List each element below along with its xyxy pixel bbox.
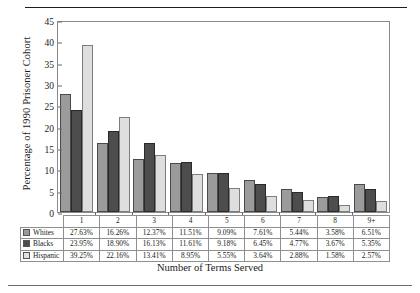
bar-hispanic-2 xyxy=(119,117,130,212)
bar-whites-7 xyxy=(281,189,292,212)
bar-hispanic-1 xyxy=(82,45,93,212)
table-cell: 5.44% xyxy=(281,227,317,239)
plot-area: 051015202530354045 xyxy=(57,21,390,213)
legend-swatch-icon xyxy=(23,240,30,247)
bar-hispanic-4 xyxy=(192,174,203,212)
y-tick-mark xyxy=(58,86,62,87)
table-cell: 12.37% xyxy=(136,227,172,239)
bar-blacks-2 xyxy=(108,131,119,212)
bar-whites-2 xyxy=(97,143,108,212)
y-tick-label: 20 xyxy=(45,124,55,134)
y-tick-label: 5 xyxy=(49,188,54,198)
plot-inner: 051015202530354045 xyxy=(58,22,389,212)
bar-group xyxy=(95,22,132,212)
table-cell: 9.09% xyxy=(209,227,245,239)
y-axis-title: Percentage of 1990 Prisoner Cohort xyxy=(21,11,32,216)
column-header: 6 xyxy=(245,216,281,228)
bar-whites-8 xyxy=(317,197,328,212)
y-tick-mark xyxy=(58,192,62,193)
table-cell: 7.61% xyxy=(245,227,281,239)
table-corner-cell xyxy=(21,216,64,228)
table-cell: 2.88% xyxy=(281,250,317,262)
legend-item-hispanic: Hispanic xyxy=(21,250,64,262)
y-tick-label: 40 xyxy=(45,38,55,48)
table-cell: 3.64% xyxy=(245,250,281,262)
bar-hispanic-9plus xyxy=(376,201,387,212)
table-cell: 11.61% xyxy=(172,239,208,251)
column-header: 2 xyxy=(100,216,136,228)
bar-blacks-5 xyxy=(218,173,229,212)
table-cell: 8.95% xyxy=(172,250,208,262)
table-cell: 16.26% xyxy=(100,227,136,239)
legend-swatch-icon xyxy=(23,252,30,259)
bar-group xyxy=(168,22,205,212)
bar-blacks-4 xyxy=(181,162,192,212)
bar-group xyxy=(315,22,352,212)
bar-group xyxy=(205,22,242,212)
table-cell: 22.16% xyxy=(100,250,136,262)
table-cell: 13.41% xyxy=(136,250,172,262)
legend-swatch-icon xyxy=(23,229,30,236)
bar-whites-6 xyxy=(244,180,255,212)
table-cell: 2.57% xyxy=(353,250,389,262)
bar-blacks-6 xyxy=(255,184,266,212)
table-row: Whites27.63%16.26%12.37%11.51%9.09%7.61%… xyxy=(21,227,390,239)
table-cell: 18.90% xyxy=(100,239,136,251)
bar-groups xyxy=(58,22,389,212)
column-header: 5 xyxy=(209,216,245,228)
y-tick-mark xyxy=(58,64,62,65)
legend-label: Whites xyxy=(33,228,54,237)
x-axis-title: Number of Terms Served xyxy=(0,262,420,273)
bar-blacks-8 xyxy=(328,196,339,212)
y-tick-label: 15 xyxy=(45,145,55,155)
table-row: Blacks23.95%18.90%16.13%11.61%9.18%6.45%… xyxy=(21,239,390,251)
bar-blacks-1 xyxy=(71,110,82,212)
table-cell: 4.77% xyxy=(281,239,317,251)
table-cell: 3.58% xyxy=(317,227,353,239)
table-cell: 5.35% xyxy=(353,239,389,251)
table-row: Hispanic39.25%22.16%13.41%8.95%5.55%3.64… xyxy=(21,250,390,262)
y-tick-mark xyxy=(58,107,62,108)
top-rule xyxy=(25,7,407,8)
bar-group xyxy=(352,22,389,212)
table-cell: 5.55% xyxy=(209,250,245,262)
bar-hispanic-3 xyxy=(155,155,166,212)
legend-item-whites: Whites xyxy=(21,227,64,239)
table-cell: 23.95% xyxy=(63,239,99,251)
bar-whites-3 xyxy=(133,159,144,212)
bar-group xyxy=(279,22,316,212)
y-tick-label: 10 xyxy=(45,166,55,176)
bar-group xyxy=(242,22,279,212)
bar-blacks-7 xyxy=(292,192,303,212)
bar-whites-1 xyxy=(60,94,71,212)
table-cell: 11.51% xyxy=(172,227,208,239)
y-tick-mark xyxy=(58,171,62,172)
bar-hispanic-5 xyxy=(229,188,240,212)
table-cell: 6.45% xyxy=(245,239,281,251)
table-cell: 9.18% xyxy=(209,239,245,251)
data-table: 123456789+Whites27.63%16.26%12.37%11.51%… xyxy=(20,215,390,262)
y-tick-label: 35 xyxy=(45,60,55,70)
table-cell: 16.13% xyxy=(136,239,172,251)
bottom-rule xyxy=(8,285,412,286)
bar-whites-9plus xyxy=(354,184,365,212)
y-tick-label: 30 xyxy=(45,81,55,91)
table-cell: 3.67% xyxy=(317,239,353,251)
table-cell: 1.58% xyxy=(317,250,353,262)
figure: Percentage of 1990 Prisoner Cohort 05101… xyxy=(0,0,420,293)
table-cell: 27.63% xyxy=(63,227,99,239)
y-tick-mark xyxy=(58,43,62,44)
legend-item-blacks: Blacks xyxy=(21,239,64,251)
y-tick-label: 45 xyxy=(45,17,55,27)
y-tick-label: 25 xyxy=(45,102,55,112)
bar-hispanic-8 xyxy=(339,205,350,212)
bar-group xyxy=(132,22,169,212)
column-header: 7 xyxy=(281,216,317,228)
column-header: 1 xyxy=(63,216,99,228)
column-header: 9+ xyxy=(353,216,389,228)
table-header-row: 123456789+ xyxy=(21,216,390,228)
column-header: 8 xyxy=(317,216,353,228)
column-header: 3 xyxy=(136,216,172,228)
y-tick-mark xyxy=(58,22,62,23)
bar-whites-4 xyxy=(170,163,181,212)
